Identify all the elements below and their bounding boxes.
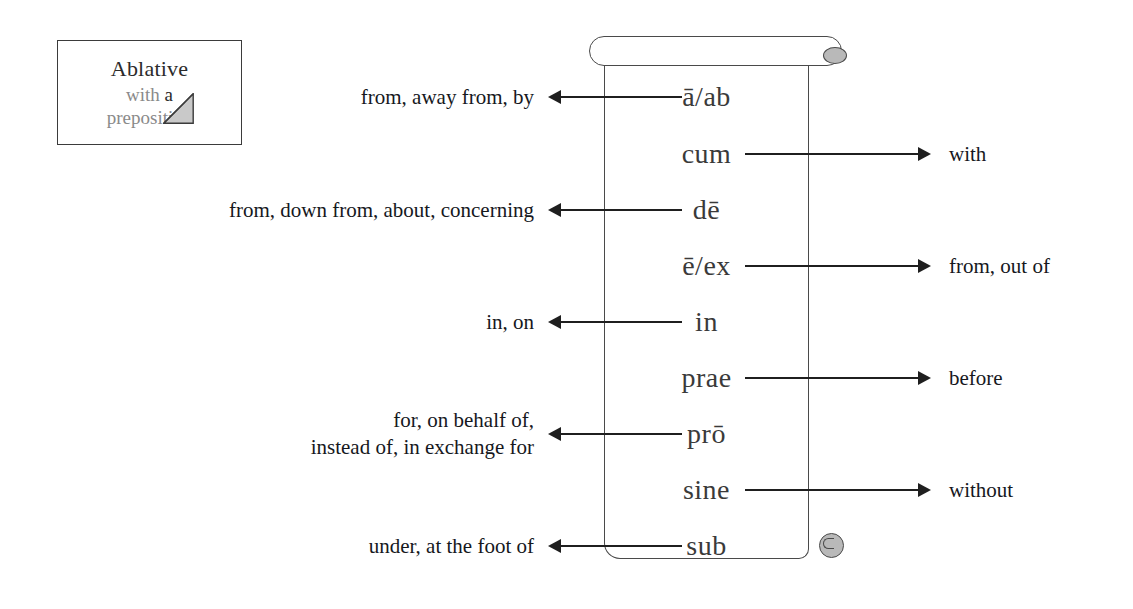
english-gloss: for, on behalf of, instead of, in exchan… bbox=[311, 407, 534, 461]
english-gloss: from, out of bbox=[949, 253, 1050, 280]
english-gloss: without bbox=[949, 477, 1013, 504]
english-gloss: under, at the foot of bbox=[369, 533, 534, 560]
arrow-left-icon bbox=[548, 203, 561, 217]
english-gloss: from, away from, by bbox=[361, 84, 534, 111]
connector-line bbox=[745, 153, 918, 155]
connector-line bbox=[745, 489, 918, 491]
english-gloss: from, down from, about, concerning bbox=[229, 197, 534, 224]
connector-line bbox=[560, 96, 682, 98]
arrow-left-icon bbox=[548, 315, 561, 329]
connector-line bbox=[560, 209, 682, 211]
note-subtitle-line-2: preposition bbox=[107, 106, 193, 129]
note-title: Ablative bbox=[111, 56, 188, 83]
connector-line bbox=[745, 265, 918, 267]
connector-line bbox=[560, 433, 682, 435]
note-subtitle-line-1: with a bbox=[126, 83, 173, 106]
arrow-right-icon bbox=[918, 147, 931, 161]
arrow-right-icon bbox=[918, 483, 931, 497]
scroll-top-rod bbox=[589, 36, 842, 66]
connector-line bbox=[560, 545, 682, 547]
diagram-canvas: Ablative with a preposition ā/abfrom, aw… bbox=[0, 0, 1133, 609]
note-subtitle-emphasis: a bbox=[165, 84, 173, 105]
english-gloss: in, on bbox=[486, 309, 534, 336]
english-gloss: before bbox=[949, 365, 1003, 392]
note-subtitle-prefix: with bbox=[126, 84, 165, 105]
ablative-note-card: Ablative with a preposition bbox=[57, 40, 242, 145]
english-gloss: with bbox=[949, 141, 986, 168]
scroll-top-knob-icon bbox=[823, 47, 847, 64]
connector-line bbox=[745, 377, 918, 379]
arrow-left-icon bbox=[548, 427, 561, 441]
connector-line bbox=[560, 321, 682, 323]
arrow-right-icon bbox=[918, 371, 931, 385]
arrow-left-icon bbox=[548, 539, 561, 553]
arrow-right-icon bbox=[918, 259, 931, 273]
scroll-bottom-knob-curl-icon bbox=[823, 538, 834, 549]
arrow-left-icon bbox=[548, 90, 561, 104]
